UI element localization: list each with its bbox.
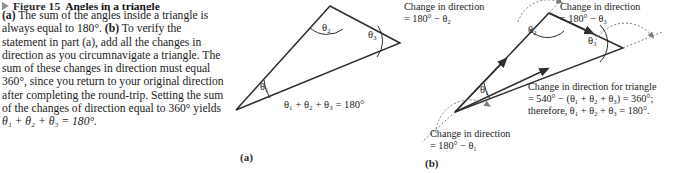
triangle-outline-a [236, 6, 400, 110]
note-total-line3: therefore, θ₁ + θ₂ + θ₃ = 180°. [528, 105, 650, 117]
caption-text: (a) The sum of the angles inside a trian… [2, 9, 224, 129]
triangle-diagram-a [224, 0, 404, 150]
extension-line-theta3 [623, 32, 662, 48]
note-theta2-line1: Change in direction [404, 1, 484, 13]
note-theta3-line1: Change in direction [560, 1, 640, 13]
note-total-line2: = 540° − (θ₁ + θ₂ + θ₃) = 360°; [528, 93, 653, 105]
panel-label-b: (b) [425, 157, 438, 169]
note-theta3-line2: = 180° − θ₃ [560, 13, 607, 25]
angle-label-theta1-b: θ₁ [480, 84, 489, 96]
caption-part-a-tag: (a) [2, 9, 16, 22]
angle-label-theta2-a: θ₂ [322, 22, 331, 34]
diagram-panel-a: θ₁ θ₂ θ₃ θ₁ + θ₂ + θ₃ = 180° (a) [224, 0, 404, 173]
angle-label-theta3-b: θ₃ [588, 35, 597, 47]
note-theta1-line2: = 180° − θ₁ [430, 140, 477, 152]
diagram-panel-b: θ₂ θ₃ θ₁ Change in direction = 180° − θ₂… [400, 0, 680, 173]
note-theta1-line1: Change in direction [430, 128, 510, 140]
angle-label-theta2-b: θ₂ [528, 24, 537, 36]
note-theta2-line2: = 180° − θ₂ [404, 13, 451, 25]
caption-part-b-tag: (b) [105, 22, 119, 35]
note-total-line1: Change in direction for triangle [528, 81, 656, 93]
angle-label-theta3-a: θ₃ [368, 29, 377, 41]
figure-caption-block: Figure 15Angles in a triangle (a) The su… [2, 0, 224, 173]
angle-label-theta1-a: θ₁ [260, 81, 269, 93]
caption-part-b-text: To verify the statement in part (a), add… [2, 22, 224, 115]
exterior-arc-theta2 [518, 0, 560, 22]
figure-page: Figure 15Angles in a triangle (a) The su… [0, 0, 680, 173]
caption-final-equation: θ₁ + θ₂ + θ₃ = 180°. [2, 115, 97, 128]
panel-label-a: (a) [240, 151, 253, 163]
triangle-sum-equation-a: θ₁ + θ₂ + θ₃ = 180° [284, 99, 364, 111]
